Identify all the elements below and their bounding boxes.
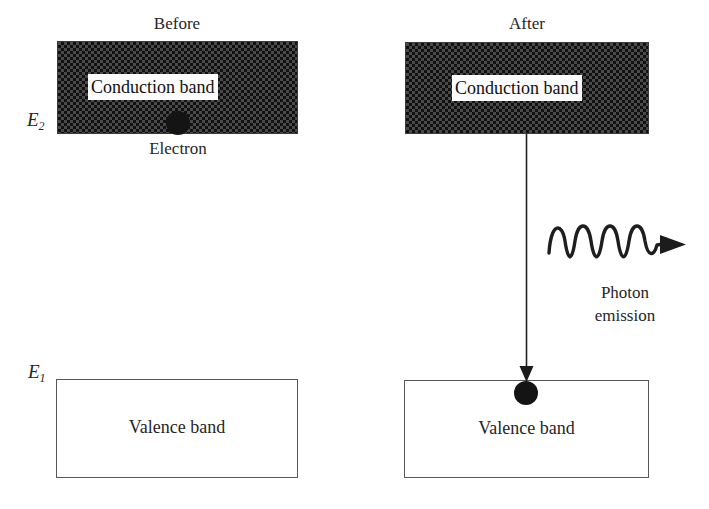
panel-title-before: Before xyxy=(117,14,237,34)
conduction-band-label-before: Conduction band xyxy=(88,74,218,100)
photon-caption-line2: emission xyxy=(565,304,685,327)
photon-caption-line1: Photon xyxy=(565,281,685,304)
valence-band-label-after: Valence band xyxy=(404,417,649,439)
valence-band-label-before: Valence band xyxy=(56,416,298,438)
electron-dot-icon-before xyxy=(166,111,190,135)
electron-caption: Electron xyxy=(118,139,238,159)
energy-level-label-e1: E1 xyxy=(28,362,46,384)
photon-emission-caption: Photon emission xyxy=(565,281,685,327)
energy-e1-subscript: 1 xyxy=(40,371,46,385)
panel-title-after: After xyxy=(467,14,587,34)
energy-level-label-e2: E2 xyxy=(27,110,45,132)
figure-canvas: Before Conduction band Electron E2 Valen… xyxy=(0,0,709,509)
wavy-arrow-icon xyxy=(549,226,686,257)
electron-dot-icon-after xyxy=(514,381,538,405)
photon-arrow-head xyxy=(660,235,686,254)
down-arrow-icon xyxy=(520,134,534,382)
conduction-band-label-after: Conduction band xyxy=(452,75,582,101)
energy-e2-base: E xyxy=(27,109,39,130)
photon-wave-path xyxy=(549,226,663,257)
energy-e2-subscript: 2 xyxy=(39,119,45,133)
energy-e1-base: E xyxy=(28,361,40,382)
